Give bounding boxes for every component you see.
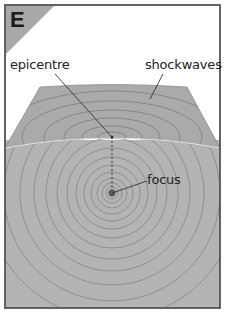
earthquake-diagram [0, 0, 225, 319]
epicentre-label: epicentre [10, 57, 70, 72]
panel-letter: E [10, 7, 25, 33]
shockwaves-label: shockwaves [145, 57, 222, 72]
focus-label: focus [147, 172, 181, 187]
